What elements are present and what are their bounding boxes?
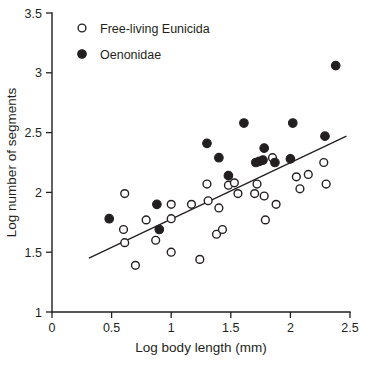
x-tick-label: 2.5	[341, 321, 358, 335]
x-axis-title: Log body length (mm)	[135, 340, 266, 355]
y-axis-ticks: 11.522.533.5	[25, 7, 52, 320]
legend-label: Free-living Eunicida	[100, 22, 210, 36]
data-point	[304, 171, 312, 179]
axis-lines	[52, 13, 350, 312]
y-tick-label: 2	[35, 186, 42, 200]
legend-marker-open-circle-icon	[78, 24, 86, 32]
data-point	[120, 226, 128, 234]
data-point	[253, 180, 261, 188]
data-point	[167, 248, 175, 256]
scatter-plot-figure: 00.511.522.511.522.533.5Log body length …	[0, 0, 368, 365]
data-point	[215, 153, 224, 162]
data-point	[152, 236, 160, 244]
data-point	[234, 190, 242, 198]
y-tick-label: 3.5	[25, 7, 42, 21]
data-point	[153, 200, 162, 209]
data-point	[203, 180, 211, 188]
data-point	[215, 204, 223, 212]
data-point	[167, 200, 175, 208]
data-point	[286, 155, 295, 164]
y-tick-label: 1.5	[25, 246, 42, 260]
data-point	[155, 225, 164, 234]
data-point	[121, 190, 129, 198]
data-point	[142, 216, 150, 224]
x-tick-label: 2	[287, 321, 294, 335]
data-point	[331, 61, 340, 70]
data-point	[132, 261, 140, 269]
data-point	[196, 255, 204, 263]
x-axis-ticks: 00.511.522.5	[49, 312, 359, 335]
y-tick-label: 3	[35, 66, 42, 80]
data-point	[272, 200, 280, 208]
legend-label: Oenonidae	[100, 48, 161, 62]
data-point	[260, 192, 268, 200]
y-tick-label: 2.5	[25, 126, 42, 140]
data-point	[271, 158, 280, 167]
data-point	[224, 171, 233, 180]
data-point	[259, 156, 268, 165]
data-point	[188, 200, 196, 208]
legend: Free-living EunicidaOenonidae	[78, 22, 210, 62]
data-point	[121, 239, 129, 247]
series-1-points	[120, 154, 330, 269]
data-point	[230, 179, 238, 187]
x-tick-label: 1	[168, 321, 175, 335]
data-point	[219, 226, 227, 234]
axes-group	[52, 13, 350, 312]
data-point	[261, 216, 269, 224]
data-point	[321, 132, 330, 141]
data-point	[251, 190, 259, 198]
data-point	[296, 185, 304, 193]
data-point	[322, 180, 330, 188]
legend-marker-filled-circle-icon	[78, 50, 87, 59]
data-point	[320, 159, 328, 167]
data-point	[292, 173, 300, 181]
data-point	[204, 197, 212, 205]
data-point	[203, 139, 212, 148]
x-tick-label: 1.5	[222, 321, 239, 335]
x-tick-label: 0	[49, 321, 56, 335]
data-point	[167, 215, 175, 223]
data-point	[288, 119, 297, 128]
y-axis-title: Log number of segments	[4, 88, 19, 238]
data-point	[240, 119, 249, 128]
y-tick-label: 1	[35, 306, 42, 320]
data-point	[105, 214, 114, 223]
x-tick-label: 0.5	[103, 321, 120, 335]
chart-canvas: 00.511.522.511.522.533.5Log body length …	[0, 0, 368, 365]
data-point	[260, 144, 269, 153]
